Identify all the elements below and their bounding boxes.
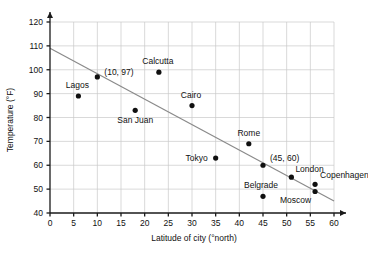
x-axis-title: Latitude of city (°north) xyxy=(151,233,237,243)
data-point-marker xyxy=(133,108,138,113)
x-tick-label: 50 xyxy=(282,218,292,228)
y-tick-label: 120 xyxy=(29,17,43,27)
y-tick-label: 60 xyxy=(34,160,44,170)
x-tick-label: 30 xyxy=(187,218,197,228)
y-tick-label: 70 xyxy=(34,136,44,146)
data-point-marker xyxy=(289,175,294,180)
y-tick-label: 100 xyxy=(29,65,43,75)
data-point-marker xyxy=(156,70,161,75)
y-tick-label: 90 xyxy=(34,89,44,99)
data-point-marker xyxy=(312,189,317,194)
scatter-plot-figure: 051015202530354045505560 405060708090100… xyxy=(0,0,368,261)
data-point-label: Rome xyxy=(237,128,260,138)
y-tick-label: 50 xyxy=(34,184,44,194)
y-axis-title: Temperature (°F) xyxy=(5,88,15,153)
data-point-marker xyxy=(189,103,194,108)
x-tick-label: 5 xyxy=(71,218,76,228)
x-tick-label: 10 xyxy=(93,218,103,228)
data-point-marker xyxy=(213,155,218,160)
x-tick-label: 25 xyxy=(164,218,174,228)
x-tick-label: 35 xyxy=(211,218,221,228)
data-point-label: Lagos xyxy=(66,80,89,90)
data-point-label: Belgrade xyxy=(244,180,278,190)
data-point-label: Tokyo xyxy=(185,153,207,163)
data-point-label: San Juan xyxy=(117,115,153,125)
data-point-marker xyxy=(260,163,265,168)
y-tick-label: 110 xyxy=(29,41,43,51)
x-tick-label: 45 xyxy=(258,218,268,228)
coordinate-annotation: (10, 97) xyxy=(104,67,133,77)
data-point-marker xyxy=(312,182,317,187)
data-point-marker xyxy=(76,93,81,98)
x-tick-label: 20 xyxy=(140,218,150,228)
data-point-label: Calcutta xyxy=(142,56,173,66)
data-point-marker xyxy=(246,141,251,146)
chart-canvas: 051015202530354045505560 405060708090100… xyxy=(0,0,368,261)
data-point-marker xyxy=(260,194,265,199)
data-point-label: Copenhagen xyxy=(320,170,368,180)
coordinate-annotation: (45, 60) xyxy=(270,153,299,163)
x-tick-label: 55 xyxy=(306,218,316,228)
data-point-label: Cairo xyxy=(181,90,202,100)
data-point-label: Moscow xyxy=(280,195,312,205)
x-tick-label: 0 xyxy=(48,218,53,228)
x-tick-label: 60 xyxy=(329,218,339,228)
x-tick-label: 15 xyxy=(116,218,126,228)
y-tick-label: 80 xyxy=(34,113,44,123)
y-tick-label: 40 xyxy=(34,208,44,218)
x-tick-label: 40 xyxy=(235,218,245,228)
data-point-marker xyxy=(95,74,100,79)
